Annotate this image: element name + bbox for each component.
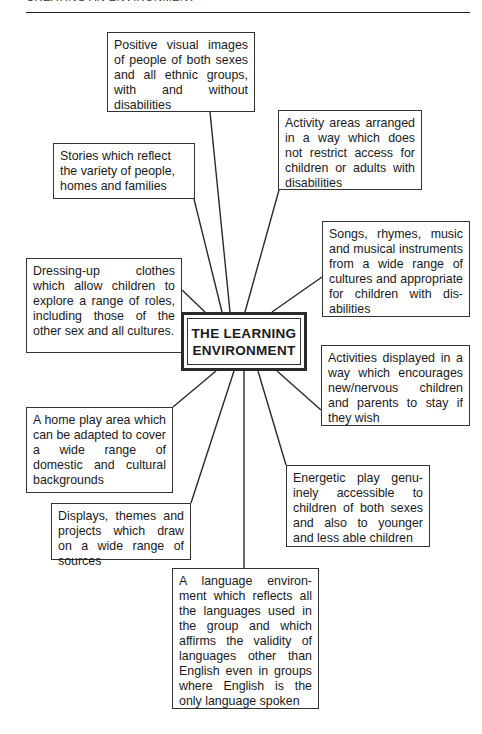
center-node-learning-environment: THE LEARNING ENVIRONMENT xyxy=(181,312,307,371)
node-home-play: A home play area which can be adapted to… xyxy=(26,407,173,493)
center-title-line2: ENVIRONMENT xyxy=(192,342,295,359)
node-activity-areas: Activity areas arranged in a way which d… xyxy=(278,110,422,190)
node-dressing-up: Dressing-up clothes which allow children… xyxy=(26,258,182,353)
node-text: Songs, rhymes, music and musical instrum… xyxy=(329,227,463,316)
node-text: Activities displayed in a way which enco… xyxy=(328,351,463,425)
node-text: A home play area which can be adapted to… xyxy=(33,413,166,487)
node-text: Displays, themes and projects which draw… xyxy=(58,509,184,568)
node-songs: Songs, rhymes, music and musical instrum… xyxy=(322,221,470,317)
node-activities-displayed: Activities displayed in a way which enco… xyxy=(321,345,470,426)
node-stories: Stories which reflect the variety of peo… xyxy=(53,143,195,199)
node-text: Energetic play genu­inely accessible to … xyxy=(293,471,423,545)
node-positive-images: Positive visual images of people of both… xyxy=(107,32,255,112)
node-displays: Displays, themes and projects which draw… xyxy=(51,503,191,560)
node-text: Stories which reflect the variety of peo… xyxy=(60,149,175,193)
node-text: A language environ­ment which reflects a… xyxy=(179,574,312,708)
center-title-line1: THE LEARNING xyxy=(192,325,297,342)
node-energetic-play: Energetic play genu­inely accessible to … xyxy=(286,465,430,547)
node-text: Activity areas arranged in a way which d… xyxy=(285,116,415,190)
node-text: Dressing-up clothes which allow children… xyxy=(33,264,175,338)
node-language: A language environ­ment which reflects a… xyxy=(172,568,319,709)
center-node-inner: THE LEARNING ENVIRONMENT xyxy=(187,318,301,365)
node-text: Positive visual images of people of both… xyxy=(114,38,248,112)
